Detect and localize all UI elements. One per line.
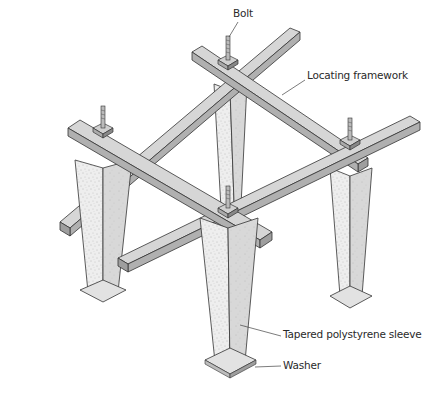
label-washer: Washer [283,359,321,371]
leader-washer [255,366,281,367]
label-sleeve: Tapered polystyrene sleeve [283,328,422,340]
label-bolt: Bolt [233,7,253,19]
bolt-right [340,118,360,150]
bolt-left [93,106,113,138]
leader-framework [282,80,305,95]
foundation-diagram [0,0,435,404]
front-sleeve [200,218,258,378]
label-locating-framework: Locating framework [307,69,408,81]
leader-bolt [229,22,238,37]
right-sleeve [330,168,372,308]
washer-front [205,348,256,374]
washer-right [330,286,372,308]
bolt-back [218,36,238,70]
left-sleeve [75,160,132,302]
